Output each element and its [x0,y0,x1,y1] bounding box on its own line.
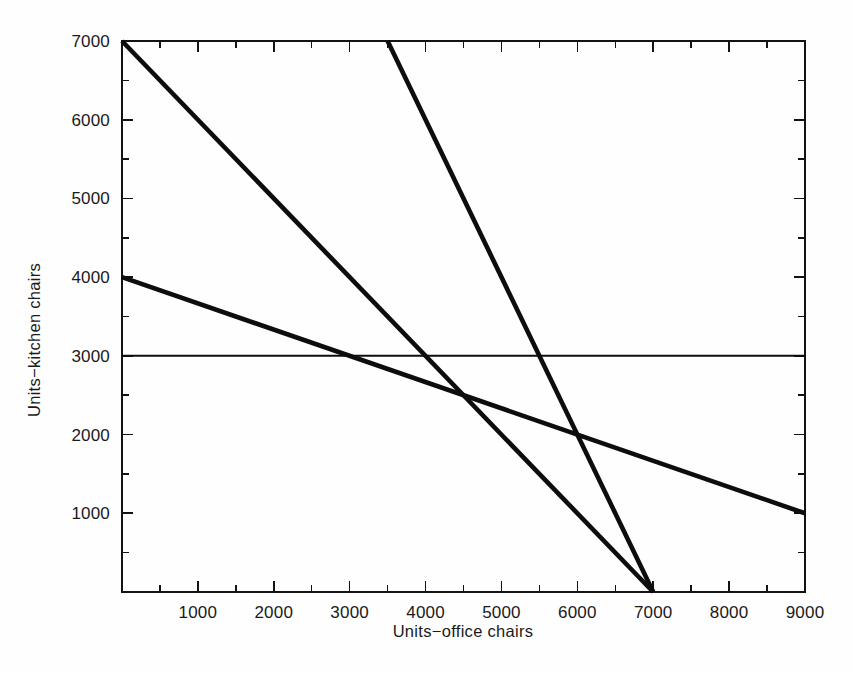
data-series [122,41,805,592]
y-axis-title: Units−kitchen chairs [25,263,43,417]
x-tick-label: 3000 [330,603,369,622]
y-tick-label: 5000 [71,189,110,208]
x-tick-label: 6000 [558,603,597,622]
x-axis-title: Units−office chairs [393,622,534,640]
plot-frame [122,41,805,592]
y-tick-label: 1000 [71,504,110,523]
x-tick-label: 1000 [179,603,218,622]
x-axis-tick-labels: 100020003000400050006000700080009000 [179,603,825,622]
series-constraint-medium [122,41,653,592]
y-tick-label: 7000 [71,32,110,51]
x-tick-label: 7000 [634,603,673,622]
y-axis-tick-labels: 1000200030004000500060007000 [71,32,110,523]
y-tick-label: 3000 [71,347,110,366]
x-tick-label: 9000 [786,603,825,622]
y-tick-label: 4000 [71,268,110,287]
y-tick-label: 2000 [71,426,110,445]
chart-canvas: 100020003000400050006000700080009000 100… [0,0,854,673]
series-constraint-steep [388,41,654,592]
chart-container: 100020003000400050006000700080009000 100… [0,0,854,673]
axis-ticks [122,41,805,592]
x-tick-label: 5000 [482,603,521,622]
x-tick-label: 2000 [254,603,293,622]
y-tick-label: 6000 [71,111,110,130]
x-tick-label: 4000 [406,603,445,622]
series-constraint-shallow [122,277,805,513]
x-tick-label: 8000 [710,603,749,622]
